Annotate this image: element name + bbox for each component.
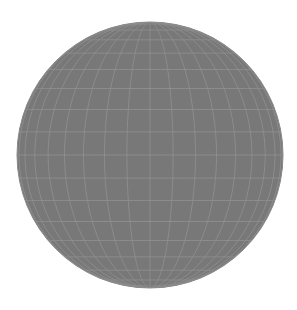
globe-wireframe [0, 0, 297, 310]
graticule-lines [17, 22, 283, 288]
figure-canvas: Orthographic wireframe globe [0, 0, 297, 310]
